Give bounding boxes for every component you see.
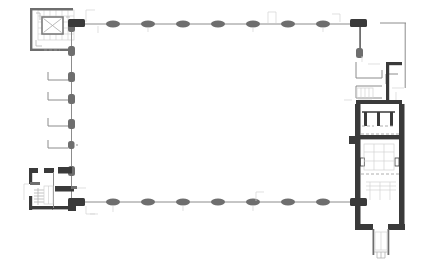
porch-west-wall-upper <box>29 168 32 184</box>
annex-connector-wall <box>359 27 361 49</box>
tower-west-wall <box>30 8 32 51</box>
chancel-sw-corner <box>355 224 373 230</box>
porch-inner-wall-west <box>30 182 40 185</box>
chancel-north-wall <box>356 100 402 104</box>
tower-stair-core <box>42 17 63 34</box>
south-colonnade-west-terminal <box>68 198 85 206</box>
chancel-west-buttress <box>349 136 356 144</box>
north-colonnade-west-terminal <box>68 19 85 27</box>
chancel-east-niche <box>395 158 399 166</box>
floor-plan-canvas: Basilica / church ground-floor plan: lon… <box>0 0 441 273</box>
north-colonnade-east-terminal <box>350 19 367 27</box>
chancel-cross-wall <box>356 135 400 139</box>
annex-east-wall <box>386 62 389 102</box>
chancel-west-wall <box>355 104 361 230</box>
porch-south-wall-west <box>29 206 53 209</box>
porch-east-return <box>71 186 77 189</box>
apse-east-wall <box>388 229 390 255</box>
arcade-column-3 <box>390 112 393 126</box>
tower-north-wall <box>30 8 73 10</box>
west-wall-marker-dot <box>76 144 78 146</box>
arcade-column-1 <box>364 112 367 126</box>
porch-north-pier-b <box>58 167 72 174</box>
porch-north-pier-a <box>44 168 54 173</box>
floor-plan-drawing <box>0 0 441 273</box>
chancel-arcade <box>362 112 395 126</box>
apse-west-wall <box>373 229 375 255</box>
chancel-se-corner <box>388 224 405 230</box>
arcade-column-2 <box>377 112 380 126</box>
chancel-east-wall <box>399 104 405 230</box>
